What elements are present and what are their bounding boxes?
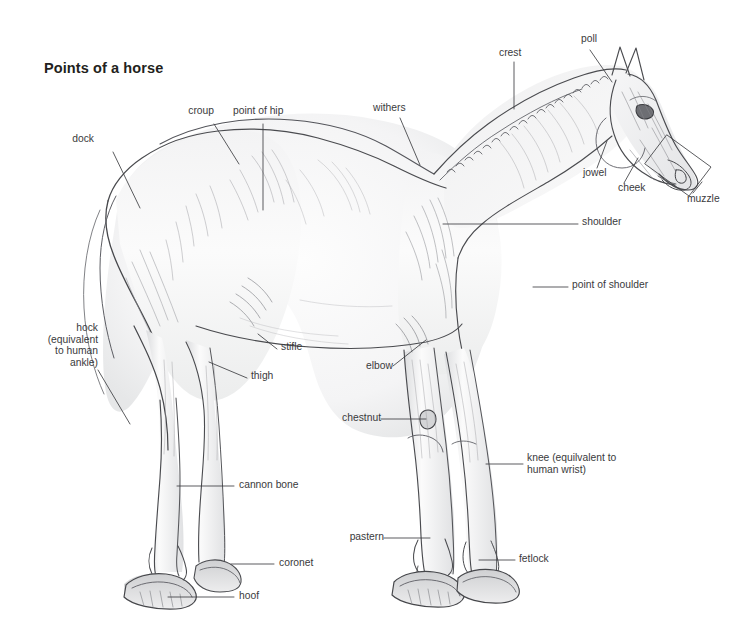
label-jowel: jowel bbox=[583, 167, 629, 179]
label-hock: hock (equivalent to human ankle) bbox=[18, 322, 98, 368]
label-cannon-bone: cannon bone bbox=[239, 479, 319, 491]
label-knee: knee (equilvalent to human wrist) bbox=[527, 452, 647, 475]
label-hoof: hoof bbox=[239, 590, 279, 602]
label-poll: poll bbox=[581, 33, 621, 45]
horse-body-group bbox=[84, 47, 711, 609]
label-croup: croup bbox=[144, 105, 214, 117]
label-point-of-hip: point of hip bbox=[233, 105, 323, 117]
label-stifle: stifle bbox=[281, 341, 325, 353]
label-elbow: elbow bbox=[349, 360, 393, 372]
diagram-canvas: Points of a horse dock croup point of hi… bbox=[0, 0, 756, 638]
label-fetlock: fetlock bbox=[519, 553, 569, 565]
label-cheek: cheek bbox=[618, 182, 666, 194]
label-chestnut: chestnut bbox=[315, 412, 381, 424]
label-shoulder: shoulder bbox=[582, 216, 652, 228]
label-muzzle: muzzle bbox=[687, 193, 741, 205]
page-title: Points of a horse bbox=[44, 60, 163, 76]
label-withers: withers bbox=[373, 102, 433, 114]
label-coronet: coronet bbox=[279, 557, 335, 569]
horse-chestnut-mark bbox=[420, 410, 436, 429]
label-thigh: thigh bbox=[251, 370, 295, 382]
label-point-of-shoulder: point of shoulder bbox=[572, 279, 692, 291]
label-crest: crest bbox=[499, 47, 549, 59]
label-pastern: pastern bbox=[330, 531, 384, 543]
label-dock: dock bbox=[44, 133, 94, 145]
